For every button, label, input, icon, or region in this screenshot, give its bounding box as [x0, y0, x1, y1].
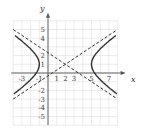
- y-tick-label: -5: [38, 113, 45, 121]
- y-tick-label: 5: [41, 26, 45, 34]
- x-tick-label: 7: [107, 75, 111, 83]
- y-tick-label: 1: [41, 61, 45, 69]
- x-axis-label: x: [131, 75, 136, 84]
- tick-labels: -3-1123575421-2-3-4-5: [18, 26, 111, 121]
- y-tick-label: -2: [38, 87, 45, 95]
- y-tick-label: -3: [38, 96, 45, 104]
- hyperbola-graph: -3-1123575421-2-3-4-5 x y: [0, 0, 143, 133]
- x-tick-label: 1: [54, 75, 58, 83]
- y-tick-label: -4: [38, 104, 45, 112]
- x-tick-label: -3: [18, 75, 25, 83]
- x-tick-label: 2: [63, 75, 67, 83]
- x-tick-label: 3: [72, 75, 76, 83]
- y-tick-label: 4: [41, 35, 46, 43]
- x-tick-label: 5: [89, 75, 93, 83]
- x-tick-label: -1: [36, 75, 43, 83]
- y-tick-label: 2: [41, 52, 45, 60]
- y-axis-label: y: [39, 4, 45, 13]
